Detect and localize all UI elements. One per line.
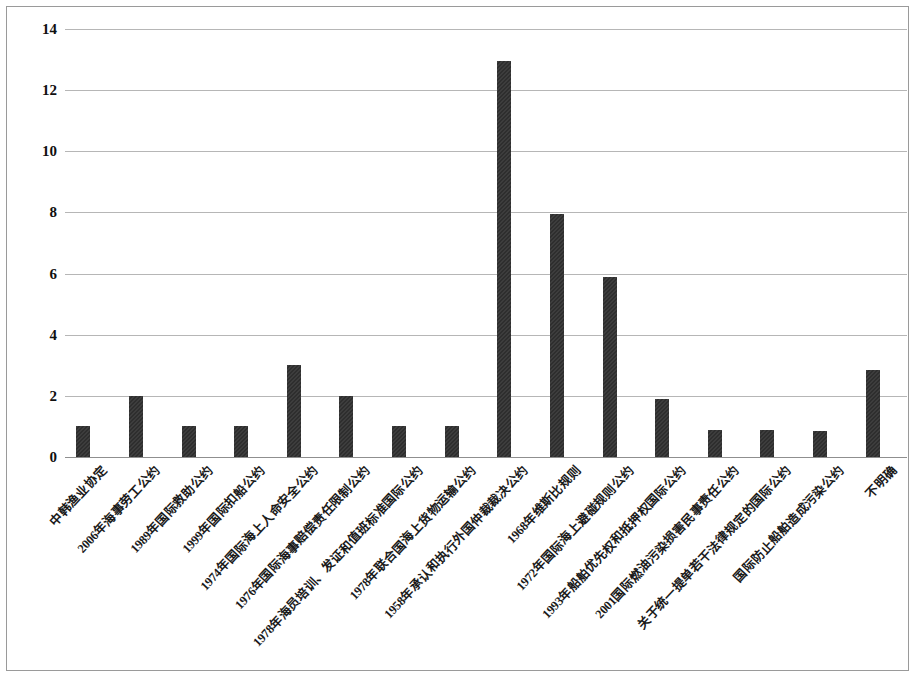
- y-axis-tick-label: 14: [23, 22, 57, 37]
- bar: [76, 426, 90, 457]
- bar: [182, 426, 196, 457]
- bar: [234, 426, 248, 457]
- bar: [708, 430, 722, 458]
- bar: [339, 396, 353, 457]
- y-axis-tick-label: 8: [23, 205, 57, 220]
- chart-frame: 14121086420 中韩渔业协定2006年海事劳工公约1989年国际救助公约…: [6, 6, 909, 671]
- gridline: [65, 274, 907, 275]
- chart-page: 14121086420 中韩渔业协定2006年海事劳工公约1989年国际救助公约…: [0, 0, 917, 679]
- y-axis-tick-label: 2: [23, 388, 57, 403]
- bar: [813, 431, 827, 457]
- bar: [129, 396, 143, 457]
- y-axis-tick-label: 0: [23, 450, 57, 465]
- bar: [497, 61, 511, 457]
- bar: [866, 370, 880, 457]
- gridline: [65, 90, 907, 91]
- bar: [445, 426, 459, 457]
- gridline: [65, 396, 907, 397]
- axis-baseline: [65, 457, 907, 458]
- y-axis-tick-label: 6: [23, 266, 57, 281]
- bar: [550, 214, 564, 457]
- bar: [760, 430, 774, 458]
- y-axis: 14121086420: [17, 29, 57, 457]
- y-axis-tick-label: 10: [23, 144, 57, 159]
- bar: [287, 365, 301, 457]
- x-axis-tick-label: 不明确: [855, 459, 895, 500]
- y-axis-tick-label: 12: [23, 83, 57, 98]
- gridline: [65, 335, 907, 336]
- gridline: [65, 212, 907, 213]
- x-axis: 中韩渔业协定2006年海事劳工公约1989年国际救助公约1999年国际扣船公约1…: [65, 459, 910, 669]
- bar: [603, 277, 617, 457]
- plot-area: [65, 29, 907, 457]
- bar: [655, 399, 669, 457]
- gridline: [65, 151, 907, 152]
- bar: [392, 426, 406, 457]
- y-axis-tick-label: 4: [23, 327, 57, 342]
- gridline: [65, 29, 907, 30]
- x-axis-tick-text: 不明确: [860, 460, 900, 501]
